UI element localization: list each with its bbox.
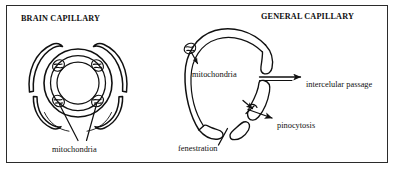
general-endothelial-cell-bottom-left — [199, 125, 223, 139]
capillary-comparison-figure: BRAIN CAPILLARY GENERAL CAPILLARY mitoch… — [0, 0, 398, 173]
general-endothelial-cell-upper-right — [261, 45, 273, 74]
general-endothelial-cell-bottom-right — [230, 122, 250, 140]
brain-endothelium-outer — [44, 49, 112, 117]
general-endothelium-inner — [191, 37, 263, 126]
general-endothelial-cell-lower-right — [248, 80, 270, 120]
brain-mitochondria-label: mitochondria — [52, 146, 97, 154]
leader-right — [87, 105, 97, 141]
pinocytosis-label: pinocytosis — [277, 122, 315, 130]
brain-capillary-title: BRAIN CAPILLARY — [21, 15, 100, 23]
fenestration-label: fenestration — [178, 145, 218, 153]
brain-mitochondria-group — [50, 57, 105, 109]
general-capillary-title: GENERAL CAPILLARY — [261, 13, 354, 21]
general-mitochondria-label: mitochondria — [192, 71, 237, 79]
intercellular-passage-label: intercelular passage — [306, 81, 372, 89]
intercellular-passage-arrow — [260, 77, 301, 81]
brain-capillary-drawing — [29, 44, 127, 141]
general-mitochondria-arrow — [192, 53, 198, 64]
